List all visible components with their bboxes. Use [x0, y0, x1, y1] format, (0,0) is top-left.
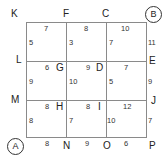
weight-v-1-0: 9 — [29, 78, 33, 86]
node-B-end: B — [145, 6, 162, 23]
grid-line-bottom — [26, 137, 147, 138]
node-H: H — [56, 102, 63, 112]
node-N: N — [63, 141, 70, 151]
weight-v-2-2: 10 — [107, 117, 115, 125]
weight-h-0-1: 8 — [84, 25, 88, 33]
weight-h-1-0: 6 — [45, 64, 49, 72]
weight-h-2-2: 12 — [123, 103, 131, 111]
node-A-start: A — [7, 138, 24, 155]
node-L: L — [16, 55, 22, 65]
grid-line-h1 — [26, 61, 147, 62]
weight-h-3-0: 8 — [45, 140, 49, 148]
weight-v-1-2: 5 — [109, 78, 113, 86]
grid-line-v1 — [66, 22, 67, 138]
weight-h-1-2: 7 — [124, 64, 128, 72]
node-E: E — [149, 56, 156, 66]
weight-h-0-2: 10 — [121, 25, 129, 33]
weight-v-2-1: 7 — [69, 117, 73, 125]
weight-h-3-2: 6 — [124, 140, 128, 148]
node-M: M — [11, 95, 19, 105]
node-J: J — [151, 96, 156, 106]
weight-h-0-0: 7 — [44, 25, 48, 33]
node-D: D — [96, 63, 103, 73]
weight-v-2-3: 7 — [148, 117, 152, 125]
node-P: P — [149, 141, 156, 151]
weight-v-2-0: 8 — [29, 117, 33, 125]
weight-v-0-2: 7 — [109, 39, 113, 47]
weight-h-2-1: 8 — [86, 103, 90, 111]
grid-line-left — [26, 22, 27, 138]
weight-h-1-1: 9 — [86, 64, 90, 72]
weight-v-0-3: 11 — [148, 39, 156, 47]
grid-line-h2 — [26, 100, 147, 101]
weight-v-1-3: 9 — [148, 78, 152, 86]
weight-v-0-1: 3 — [69, 39, 73, 47]
node-K: K — [11, 9, 18, 19]
weight-v-0-0: 5 — [29, 39, 33, 47]
node-F: F — [63, 9, 69, 19]
node-C: C — [102, 9, 109, 19]
node-G: G — [56, 63, 64, 73]
weight-h-2-0: 8 — [45, 103, 49, 111]
node-O: O — [103, 141, 111, 151]
grid-line-top — [26, 22, 147, 23]
weight-h-3-1: 9 — [85, 140, 89, 148]
node-I: I — [98, 102, 101, 112]
grid-line-right — [146, 22, 147, 138]
weight-v-1-1: 10 — [69, 78, 77, 86]
